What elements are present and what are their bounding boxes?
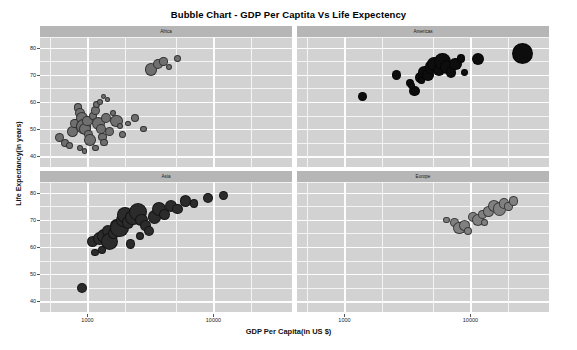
y-tick-label: 80 <box>8 190 36 196</box>
page-title: Bubble Chart - GDP Per Captita Vs Life E… <box>0 9 577 20</box>
gridline-horizontal <box>40 301 292 302</box>
gridline-horizontal <box>297 48 549 49</box>
gridline-horizontal <box>40 247 292 248</box>
gridline-horizontal <box>40 193 292 194</box>
gridline-vertical <box>50 182 51 312</box>
bubble-point <box>131 114 139 122</box>
plot-area <box>297 182 549 312</box>
gridline-horizontal <box>297 274 549 275</box>
gridline-horizontal <box>40 261 292 262</box>
bubble-point <box>92 145 99 152</box>
gridline-horizontal <box>297 61 549 62</box>
gridline-vertical <box>213 37 214 167</box>
gridline-vertical <box>508 37 509 167</box>
bubble-point <box>481 219 488 226</box>
bubble-point <box>472 53 484 65</box>
facet-strip-text: Asia <box>40 171 292 182</box>
gridline-vertical <box>251 37 252 167</box>
bubble-point <box>101 94 106 99</box>
gridline-horizontal <box>297 301 549 302</box>
gridline-horizontal <box>297 129 549 130</box>
y-tick-label: 70 <box>8 72 36 78</box>
gridline-horizontal <box>297 88 549 89</box>
y-tick-label: 60 <box>8 99 36 105</box>
facet-panel-americas: Americas <box>297 26 549 167</box>
y-axis-label: Life Expectancy(in years) <box>15 94 22 234</box>
gridline-horizontal <box>40 88 292 89</box>
gridline-horizontal <box>297 156 549 157</box>
bubble-point <box>392 70 401 79</box>
plot-area <box>40 182 292 312</box>
gridline-horizontal <box>297 220 549 221</box>
y-tick-label: 60 <box>8 244 36 250</box>
gridline-horizontal <box>297 116 549 117</box>
bubble-point <box>91 249 99 257</box>
gridline-vertical <box>213 182 214 312</box>
gridline-vertical <box>344 37 345 167</box>
gridline-vertical <box>470 182 471 312</box>
bubble-point <box>105 127 114 136</box>
gridline-horizontal <box>40 220 292 221</box>
gridline-vertical <box>307 37 308 167</box>
gridline-horizontal <box>297 288 549 289</box>
bubble-point <box>512 43 533 64</box>
gridline-horizontal <box>297 102 549 103</box>
facet-strip-text: Africa <box>40 26 292 37</box>
facet-strip-text: Europe <box>297 171 549 182</box>
bubble-point <box>100 139 108 147</box>
bubble-point <box>358 92 367 101</box>
gridline-vertical <box>50 37 51 167</box>
x-tick-label: 10000 <box>193 317 233 323</box>
bubble-point <box>125 121 131 127</box>
gridline-horizontal <box>40 233 292 234</box>
gridline-vertical <box>344 182 345 312</box>
gridline-vertical <box>433 182 434 312</box>
y-tick-label: 70 <box>8 217 36 223</box>
bubble-point <box>66 142 73 149</box>
x-tick-label: 10000 <box>450 317 490 323</box>
x-tick-label: 1000 <box>67 317 107 323</box>
bubble-point <box>203 193 213 203</box>
gridline-vertical <box>87 37 88 167</box>
plot-area <box>40 37 292 167</box>
bubble-point <box>443 217 450 224</box>
plot-area <box>297 37 549 167</box>
bubble-point <box>84 134 96 146</box>
y-tick-label: 80 <box>8 45 36 51</box>
bubble-point <box>219 191 228 200</box>
bubble-point <box>166 64 172 70</box>
bubble-point <box>97 99 103 105</box>
bubble-point <box>509 196 519 206</box>
bubble-point <box>77 283 87 293</box>
gridline-horizontal <box>40 143 292 144</box>
bubble-point <box>464 227 472 235</box>
bubble-point <box>461 69 468 76</box>
x-tick-label: 1000 <box>324 317 364 323</box>
gridline-vertical <box>251 182 252 312</box>
bubble-point <box>82 148 88 154</box>
facet-strip-text: Americas <box>297 26 549 37</box>
facet-panel-europe: Europe <box>297 171 549 312</box>
y-tick-label: 50 <box>8 126 36 132</box>
gridline-horizontal <box>40 48 292 49</box>
gridline-vertical <box>307 182 308 312</box>
gridline-horizontal <box>40 274 292 275</box>
gridline-horizontal <box>297 143 549 144</box>
y-tick-label: 40 <box>8 153 36 159</box>
gridline-horizontal <box>40 75 292 76</box>
gridline-vertical <box>87 182 88 312</box>
facet-panel-asia: Asia <box>40 171 292 312</box>
gridline-vertical <box>382 182 383 312</box>
gridline-horizontal <box>40 156 292 157</box>
facet-panel-africa: Africa <box>40 26 292 167</box>
gridline-horizontal <box>297 261 549 262</box>
bubble-point <box>457 54 465 62</box>
bubble-chart-figure: Bubble Chart - GDP Per Captita Vs Life E… <box>0 0 577 350</box>
gridline-horizontal <box>297 233 549 234</box>
gridline-vertical <box>382 37 383 167</box>
x-axis-label: GDP Per Capita(in US $) <box>0 327 577 336</box>
y-tick-label: 40 <box>8 298 36 304</box>
bubble-point <box>418 77 424 83</box>
bubble-point <box>136 232 144 240</box>
gridline-horizontal <box>297 193 549 194</box>
